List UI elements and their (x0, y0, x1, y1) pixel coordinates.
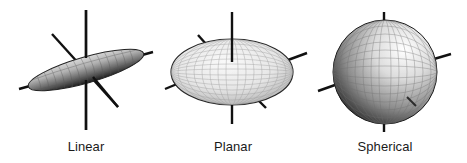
label-spherical: Spherical (357, 139, 412, 154)
planar-tick-lower-right (259, 101, 266, 108)
label-planar: Planar (214, 139, 252, 154)
linear-panel (19, 10, 153, 130)
label-linear: Linear (68, 139, 105, 154)
planar-panel (165, 12, 307, 124)
sphere (333, 20, 437, 124)
spherical-tick-right (434, 54, 451, 59)
planar-tick-right (288, 53, 307, 60)
spherical-tick-left (318, 85, 335, 91)
spherical-panel (318, 12, 451, 132)
